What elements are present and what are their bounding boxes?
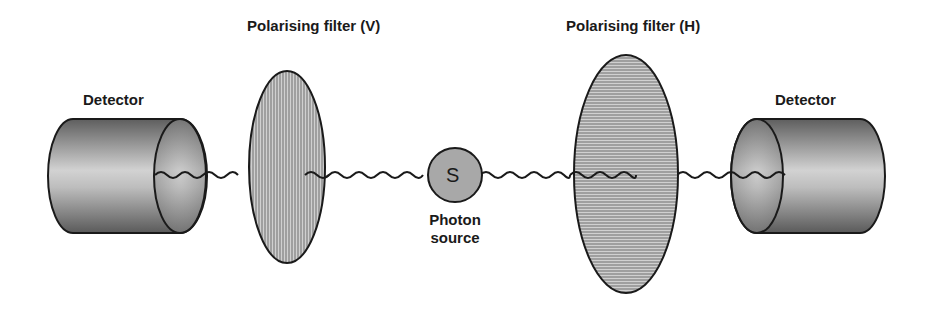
photon-source-caption-line1: Photon	[426, 211, 484, 229]
filter-vertical-label: Polarising filter (V)	[247, 17, 380, 35]
diagram-canvas	[0, 0, 938, 326]
polarising-filter-horizontal	[570, 55, 678, 293]
detector-right-label: Detector	[775, 91, 836, 109]
detector-right	[731, 119, 885, 233]
photon-source-caption-line2: source	[426, 229, 484, 247]
photon-source-caption: Photon source	[426, 211, 484, 247]
detector-left-label: Detector	[83, 91, 144, 109]
polarising-filter-vertical	[249, 71, 329, 263]
photon-source-symbol: S	[446, 163, 459, 187]
filter-horizontal-label: Polarising filter (H)	[566, 17, 700, 35]
detector-left	[48, 119, 207, 233]
